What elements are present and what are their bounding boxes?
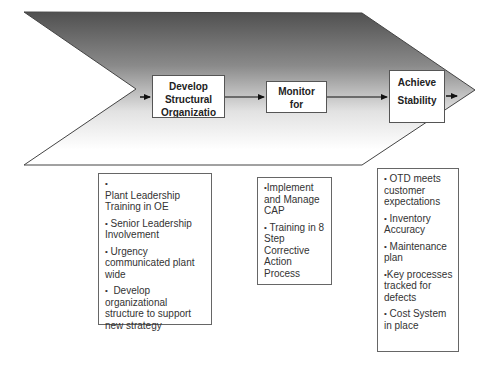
step-box-monitor: Monitor for xyxy=(266,81,327,113)
list-item-text: OTD meets customer expectations xyxy=(384,173,441,207)
list-item-text: Develop organizational structure to supp… xyxy=(105,285,191,331)
bullet-icon: • xyxy=(105,286,108,295)
step-label: Organizatio xyxy=(153,106,224,118)
list-item-text: Senior Leadership Involvement xyxy=(105,218,192,241)
list-item: • Urgency communicated plant wide xyxy=(105,246,207,281)
step-label: Structural xyxy=(153,93,224,106)
step-box-achieve-stability: Achieve Stability xyxy=(389,70,445,123)
list-item-text: Implement and Manage CAP xyxy=(264,182,320,216)
step-label: for xyxy=(267,98,326,111)
list-item-text: Urgency communicated plant wide xyxy=(105,246,195,280)
step-label: Develop xyxy=(153,80,224,93)
list-item-text: Inventory Accuracy xyxy=(384,213,431,236)
details-box-achieve-stability: • OTD meets customer expectations • Inve… xyxy=(377,168,459,352)
list-item: •Key processes tracked for defects xyxy=(384,269,454,304)
list-item-text: Plant Leadership Training in OE xyxy=(105,190,183,213)
list-item: •Plant Leadership Training in OE xyxy=(105,178,207,213)
list-item-text: Cost System in place xyxy=(384,308,446,331)
bullet-icon: • xyxy=(384,214,387,223)
list-item: •Implement and Manage CAP xyxy=(264,182,327,217)
bullet-icon: • xyxy=(384,309,387,318)
list-item: • Develop organizational structure to su… xyxy=(105,285,207,331)
step-box-develop-structural: Develop Structural Organizatio xyxy=(152,75,225,118)
bullet-icon: • xyxy=(105,179,108,188)
step-label: Monitor xyxy=(267,85,326,98)
list-item-text: Maintenance plan xyxy=(384,241,447,264)
list-item: • OTD meets customer expectations xyxy=(384,173,454,208)
bullet-icon: • xyxy=(105,247,108,256)
bullet-icon: • xyxy=(264,223,267,232)
step-label: Stability xyxy=(390,94,444,107)
list-item: • Senior Leadership Involvement xyxy=(105,218,207,241)
bullet-icon: • xyxy=(105,219,108,228)
list-item: • Inventory Accuracy xyxy=(384,213,454,236)
list-item: • Cost System in place xyxy=(384,308,454,331)
bullet-icon: • xyxy=(384,242,387,251)
details-box-monitor: •Implement and Manage CAP • Training in … xyxy=(257,177,332,285)
list-item: • Maintenance plan xyxy=(384,241,454,264)
details-box-develop-structural: •Plant Leadership Training in OE • Senio… xyxy=(98,173,212,325)
list-item: • Training in 8 Step Corrective Action P… xyxy=(264,222,327,280)
list-item-text: Key processes tracked for defects xyxy=(384,269,452,303)
bullet-icon: • xyxy=(384,174,387,183)
list-item-text: Training in 8 Step Corrective Action Pro… xyxy=(264,222,324,279)
step-label: Achieve xyxy=(390,76,444,89)
